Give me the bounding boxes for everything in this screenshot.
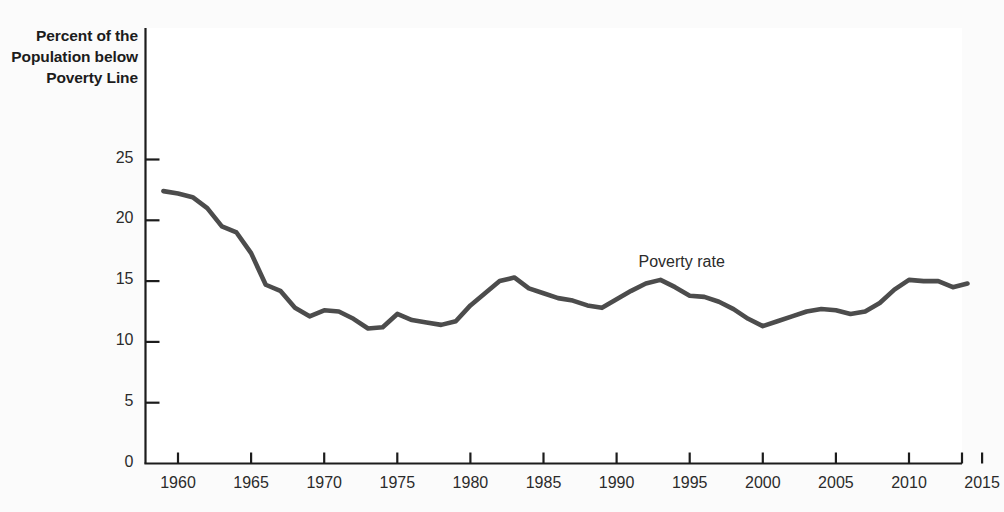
x-tick-label: 2005 — [806, 474, 866, 492]
x-tick-label: 2015 — [952, 474, 1004, 492]
y-tick-label: 20 — [94, 209, 134, 227]
x-tick-label: 1965 — [221, 474, 281, 492]
x-tick-label: 1970 — [294, 474, 354, 492]
plot-canvas — [0, 0, 1004, 512]
x-tick-label: 2000 — [733, 474, 793, 492]
y-tick-label: 25 — [94, 149, 134, 167]
x-tick-label: 1995 — [660, 474, 720, 492]
y-tick-label: 15 — [94, 270, 134, 288]
x-tick-label: 2010 — [879, 474, 939, 492]
y-tick-label: 0 — [94, 453, 134, 471]
x-tick-label: 1975 — [367, 474, 427, 492]
x-tick-label: 1980 — [440, 474, 500, 492]
y-axis-title: Percent of the Population below Poverty … — [4, 26, 138, 89]
y-tick-label: 10 — [94, 331, 134, 349]
poverty-rate-chart: Percent of the Population below Poverty … — [0, 0, 1004, 512]
x-tick-label: 1990 — [587, 474, 647, 492]
series-label-poverty-rate: Poverty rate — [639, 253, 725, 271]
y-tick-label: 5 — [94, 392, 134, 410]
x-tick-label: 1985 — [514, 474, 574, 492]
x-tick-label: 1960 — [148, 474, 208, 492]
